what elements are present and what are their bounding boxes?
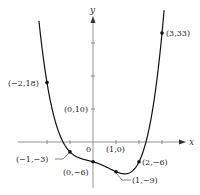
x-axis-label: x bbox=[189, 137, 194, 147]
label-point-2-neg6: (2,−6) bbox=[142, 158, 168, 167]
label-point-neg2-18: (−2,18) bbox=[8, 79, 39, 88]
data-point bbox=[114, 170, 118, 174]
label-point-neg1-neg3: (−1,−3) bbox=[16, 155, 48, 164]
leader-line bbox=[55, 153, 69, 159]
label-point-3-33: (3,33) bbox=[166, 29, 190, 38]
label-point-1-neg9: (1,−9) bbox=[132, 176, 158, 185]
y-axis-arrow-icon bbox=[91, 16, 96, 23]
label-point-0-neg6: (0,−6) bbox=[63, 168, 89, 177]
data-point bbox=[160, 31, 164, 35]
data-point bbox=[45, 81, 49, 85]
function-curve bbox=[39, 10, 164, 174]
label-0-10: (0,10) bbox=[64, 105, 88, 114]
origin-label: 0 bbox=[86, 145, 91, 154]
y-axis-label: y bbox=[89, 5, 96, 15]
data-point bbox=[137, 160, 141, 164]
data-point bbox=[91, 160, 95, 164]
x-axis-arrow-icon bbox=[179, 140, 186, 145]
labeled-points bbox=[45, 31, 164, 173]
point-labels: (−2,18)(3,33)(−1,−3)(0,−6)(1,−9)(2,−6)(0… bbox=[8, 29, 190, 185]
quartic-graph: xy0 (−2,18)(3,33)(−1,−3)(0,−6)(1,−9)(2,−… bbox=[0, 0, 200, 195]
label-1-0: (1,0) bbox=[106, 145, 125, 154]
